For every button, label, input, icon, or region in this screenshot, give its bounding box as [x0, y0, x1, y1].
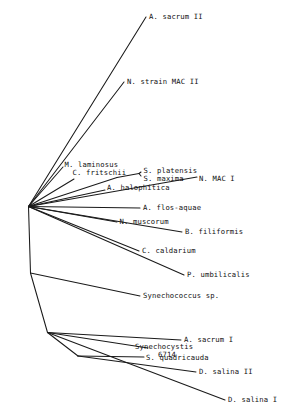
- taxon-label-d-salina-i: D. salina I: [228, 396, 277, 404]
- taxon-label-b-filiformis: B. filiformis: [185, 228, 243, 236]
- taxon-label-a-flos-aquae: A. flos-aquae: [143, 204, 201, 212]
- taxon-label-synechococcus-sp: Synechococcus sp.: [143, 292, 219, 300]
- taxon-label-layer: A. sacrum IIN. strain MAC IIM. laminosus…: [0, 0, 281, 413]
- taxon-label-a-halophitica: A. halophitica: [107, 184, 170, 192]
- taxon-label-c-fritschii: C. fritschii: [73, 169, 127, 177]
- taxon-label-d-salina-ii: D. salina II: [199, 368, 253, 376]
- taxon-label-s-quadricauda: S. quadricauda: [146, 354, 209, 362]
- taxon-label-n-muscorum: N. muscorum: [120, 218, 169, 226]
- taxon-label-a-sacrum-ii: A. sacrum II: [149, 13, 203, 21]
- taxon-label-c-caldarium: C. caldarium: [142, 247, 196, 255]
- taxon-label-p-umbilicalis: P. umbilicalis: [187, 271, 250, 279]
- phylogenetic-tree-figure: A. sacrum IIN. strain MAC IIM. laminosus…: [0, 0, 281, 413]
- taxon-label-n-mac-i: N. MAC I: [199, 175, 235, 183]
- taxon-label-n-strain-mac-ii: N. strain MAC II: [127, 78, 199, 86]
